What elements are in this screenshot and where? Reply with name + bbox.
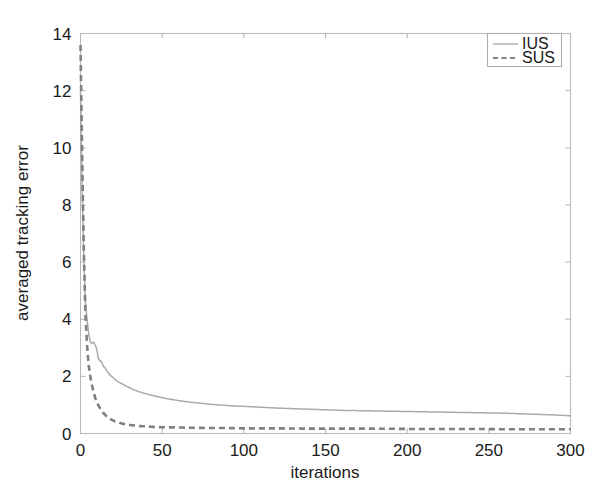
y-tick-label: 0 xyxy=(62,425,71,444)
x-tick-label: 150 xyxy=(311,441,339,460)
y-tick-label: 12 xyxy=(53,82,72,101)
x-tick-label: 50 xyxy=(153,441,172,460)
chart-legend: IUS SUS xyxy=(488,34,562,67)
data-series-group xyxy=(81,45,571,429)
chart-canvas: 050100150200250300 02468101214 iteration… xyxy=(0,0,603,503)
x-tick-label: 0 xyxy=(76,441,85,460)
y-axis-ticks xyxy=(81,91,571,377)
y-tick-label: 8 xyxy=(62,196,71,215)
y-tick-label: 4 xyxy=(62,310,71,329)
legend-label-sus: SUS xyxy=(522,49,555,66)
series-line-ius xyxy=(81,91,571,416)
y-axis-tick-labels: 02468101214 xyxy=(53,25,72,444)
y-tick-label: 10 xyxy=(53,139,72,158)
x-tick-label: 300 xyxy=(556,441,584,460)
series-line-sus xyxy=(81,45,571,429)
x-axis-title: iterations xyxy=(291,463,360,482)
x-tick-label: 100 xyxy=(230,441,258,460)
chart-figure: 050100150200250300 02468101214 iteration… xyxy=(0,0,603,503)
y-tick-label: 6 xyxy=(62,253,71,272)
x-axis-tick-labels: 050100150200250300 xyxy=(76,441,585,460)
y-tick-label: 2 xyxy=(62,367,71,386)
x-axis-ticks xyxy=(162,34,489,434)
y-axis-title: averaged tracking error xyxy=(13,145,32,321)
x-tick-label: 250 xyxy=(475,441,503,460)
y-tick-label: 14 xyxy=(53,25,72,44)
plot-frame xyxy=(81,34,571,434)
x-tick-label: 200 xyxy=(393,441,421,460)
